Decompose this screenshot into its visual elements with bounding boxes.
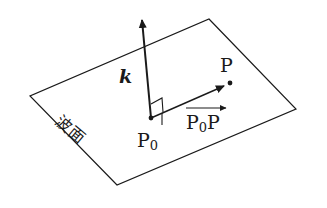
point-p0-dot <box>149 116 154 121</box>
vector-subscript: 0 <box>199 120 207 135</box>
p0-subscript: 0 <box>150 138 158 153</box>
diagram-canvas: k P P0 P0P 波面 <box>0 0 327 208</box>
k-vector-arrow <box>142 20 151 118</box>
wavefront-plane <box>30 19 296 185</box>
vector-p0p-label: P0P <box>186 113 220 134</box>
p0-main: P <box>137 129 150 151</box>
point-p0-label: P0 <box>137 131 158 152</box>
wavefront-diagram <box>0 0 327 208</box>
point-p-label: P <box>220 56 233 75</box>
vector-end: P <box>207 111 220 133</box>
point-p-dot <box>228 81 233 86</box>
right-angle-marker <box>151 98 163 112</box>
wave-vector-label: k <box>119 67 132 86</box>
vector-start: P <box>186 111 199 133</box>
